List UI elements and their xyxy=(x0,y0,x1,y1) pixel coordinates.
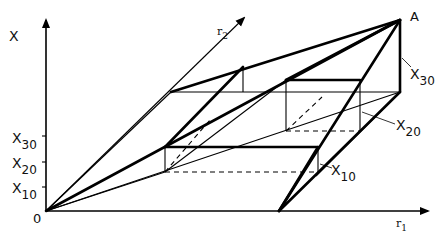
ray-upper xyxy=(46,92,171,211)
r1-label: r1 xyxy=(396,217,407,233)
tick-label-x10: X10 xyxy=(12,180,37,202)
edge-r2pt-diag xyxy=(165,67,243,147)
r2-label: r2 xyxy=(217,25,228,41)
callout-x30: X30 xyxy=(410,66,435,88)
x20-cross xyxy=(165,80,286,172)
isoquant-3d-diagram: X 0 r2 r1 X30 X20 X10 A X30 X20 X10 xyxy=(0,0,444,241)
tick-label-x30: X30 xyxy=(12,130,37,152)
x20-dash-diag xyxy=(286,97,322,131)
upper-surface xyxy=(165,20,400,211)
x-axis-label: X xyxy=(9,28,19,44)
tick-label-x20: X20 xyxy=(12,155,37,177)
origin-label: 0 xyxy=(33,211,41,226)
callout-x10: X10 xyxy=(331,162,356,184)
point-a-label: A xyxy=(410,9,419,24)
callout-x20: X20 xyxy=(396,117,421,139)
